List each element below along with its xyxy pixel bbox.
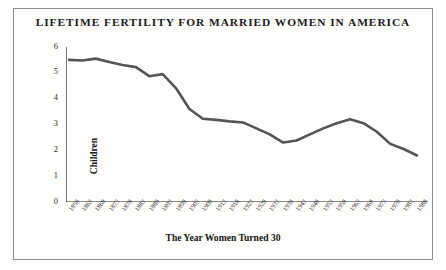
y-tick-label: 6	[42, 42, 58, 51]
chart-figure: LIFETIME FERTILITY FOR MARRIED WOMEN IN …	[0, 0, 446, 270]
y-tick-label: 5	[42, 67, 58, 76]
fertility-data-line	[69, 59, 417, 156]
x-axis-title: The Year Women Turned 30	[0, 232, 446, 243]
y-tick-label: 1	[42, 171, 58, 180]
plot-svg	[66, 47, 428, 202]
y-tick-label: 4	[42, 93, 58, 102]
y-axis-title: Children	[89, 111, 99, 201]
chart-title: LIFETIME FERTILITY FOR MARRIED WOMEN IN …	[0, 16, 446, 28]
plot-area: Children 0123456 18581863186818731878188…	[66, 47, 428, 202]
y-tick-label: 2	[42, 145, 58, 154]
y-tick-label: 0	[42, 197, 58, 206]
y-tick-label: 3	[42, 119, 58, 128]
